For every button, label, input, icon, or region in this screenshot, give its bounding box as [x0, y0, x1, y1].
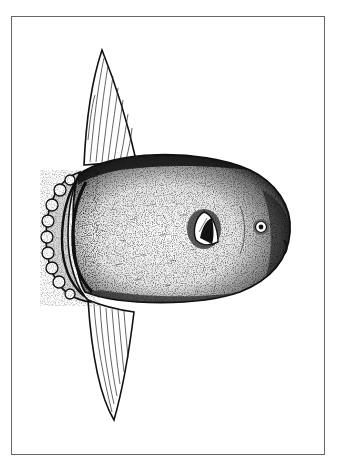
eye [253, 219, 269, 235]
anal-fin [88, 300, 134, 420]
sunfish-illustration [0, 0, 340, 470]
pectoral-fin [187, 209, 221, 249]
dorsal-fin [84, 50, 136, 165]
clavus-tail [40, 170, 100, 306]
